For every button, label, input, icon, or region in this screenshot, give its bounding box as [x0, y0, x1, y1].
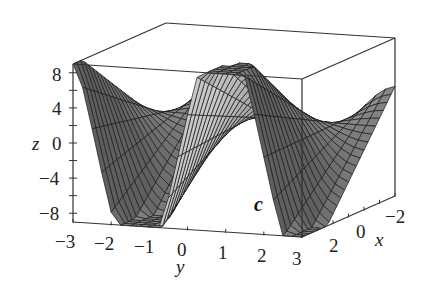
z-tick-label: −8	[39, 204, 59, 223]
y-tick-label: −2	[94, 234, 114, 253]
z-tick-label: −4	[39, 169, 59, 188]
y-tick-label: 3	[292, 249, 302, 268]
x-tick-label: 2	[329, 236, 339, 255]
z-tick-label: 8	[52, 65, 62, 84]
x-axis-label: x	[375, 230, 383, 249]
y-axis-label: y	[176, 257, 184, 276]
y-tick-label: 1	[218, 243, 228, 262]
y-tick-label: −1	[134, 237, 154, 256]
z-axis-label: z	[32, 134, 39, 153]
x-tick-label: 0	[356, 222, 366, 241]
y-tick-label: −3	[55, 232, 75, 251]
z-tick-label: 4	[52, 99, 62, 118]
y-tick-label: 2	[257, 246, 267, 265]
z-tick-label: 0	[52, 134, 62, 153]
panel-label: c	[254, 193, 263, 216]
x-tick-label: −2	[385, 207, 405, 226]
surface-mesh	[73, 61, 395, 237]
